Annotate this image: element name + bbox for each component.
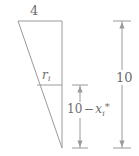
segment-arrowhead-up-icon: [77, 86, 82, 93]
segment-arrowhead-down-icon: [77, 141, 82, 148]
label-total-height: 10: [114, 70, 135, 85]
label-top-width: 4: [30, 4, 38, 17]
total-arrowhead-up-icon: [119, 22, 124, 29]
label-segment-operator: −: [84, 102, 94, 116]
label-height-segment: 10−xi*: [66, 102, 111, 118]
label-segment-star: *: [105, 101, 110, 112]
label-radius-subscript: i: [48, 74, 51, 83]
label-radius: ri: [42, 69, 51, 83]
label-radius-variable: r: [42, 68, 48, 82]
label-segment-number: 10: [67, 102, 82, 116]
geometry-figure: 4 ri 10−xi* 10: [0, 0, 139, 156]
total-arrowhead-down-icon: [119, 141, 124, 148]
